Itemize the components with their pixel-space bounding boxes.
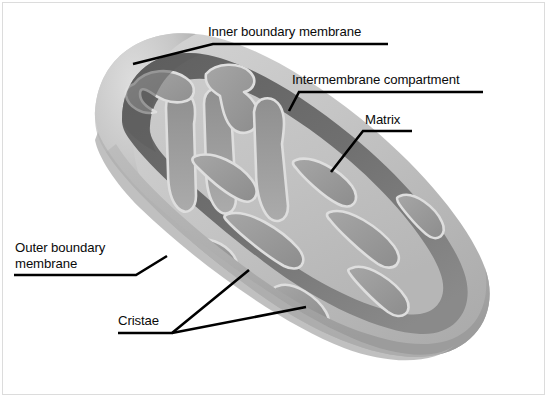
label-outer-boundary-membrane-line2: membrane bbox=[15, 256, 105, 272]
leader-cristae-lower bbox=[172, 307, 306, 333]
label-outer-boundary-membrane: Outer boundary membrane bbox=[15, 240, 105, 272]
label-cristae: Cristae bbox=[118, 313, 159, 329]
label-intermembrane-compartment: Intermembrane compartment bbox=[292, 72, 460, 88]
label-outer-boundary-membrane-line1: Outer boundary bbox=[15, 240, 105, 256]
label-inner-boundary-membrane: Inner boundary membrane bbox=[208, 24, 361, 40]
label-matrix: Matrix bbox=[365, 112, 400, 128]
figure-canvas: Inner boundary membrane Intermembrane co… bbox=[0, 0, 549, 399]
mitochondrion-illustration bbox=[0, 0, 549, 399]
